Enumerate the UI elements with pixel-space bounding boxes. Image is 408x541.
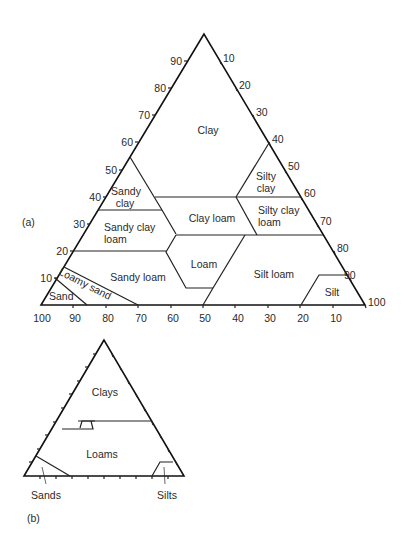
left-tick-70: 70: [138, 109, 150, 121]
bottom-tick-40: 40: [232, 312, 244, 324]
region-silty-clay-line2: clay: [257, 182, 276, 194]
figure-b-label: (b): [27, 512, 40, 524]
right-tick-10: 10: [223, 52, 235, 64]
region-clay: Clay: [197, 124, 219, 136]
right-tick-80: 80: [337, 242, 349, 254]
region-silty-clay-loam-line2: loam: [258, 216, 281, 228]
region-sandy-clay-line2: clay: [116, 197, 135, 209]
left-axis-labels: 10 20 30 40 50 60 70 80 90: [40, 55, 182, 284]
region-loams: Loams: [86, 448, 118, 460]
right-tick-100: 100: [368, 296, 386, 308]
bottom-tick-10: 10: [330, 312, 342, 324]
bottom-tick-60: 60: [167, 312, 179, 324]
region-silt: Silt: [325, 286, 340, 298]
bottom-tick-30: 30: [264, 312, 276, 324]
left-tick-10: 10: [40, 272, 52, 284]
region-sandy-loam: Sandy loam: [110, 271, 166, 283]
region-silts: Silts: [157, 489, 177, 501]
figure-a-label: (a): [22, 216, 35, 228]
region-sandy-clay: Sandy: [111, 185, 142, 197]
left-tick-50: 50: [105, 164, 117, 176]
bottom-axis-labels: 100 90 80 70 60 50 40 30 20 10: [33, 312, 342, 324]
triangle-b-ticks: [29, 354, 177, 479]
left-tick-40: 40: [89, 191, 101, 203]
region-sandy-clay-loam: Sandy clay: [104, 221, 156, 233]
bottom-tick-100: 100: [33, 312, 51, 324]
right-tick-40: 40: [272, 133, 284, 145]
bottom-tick-80: 80: [102, 312, 114, 324]
region-labels: Clay Silty clay Sandy clay Clay loam Sil…: [49, 124, 339, 302]
region-boundaries: [55, 143, 347, 305]
region-sands: Sands: [31, 489, 61, 501]
region-silty-clay-loam: Silty clay: [258, 204, 300, 216]
bottom-tick-50: 50: [199, 312, 211, 324]
bottom-tick-20: 20: [297, 312, 309, 324]
region-sand: Sand: [49, 290, 74, 302]
left-axis-ticks: [54, 61, 187, 278]
right-tick-20: 20: [239, 79, 251, 91]
right-tick-50: 50: [288, 160, 300, 172]
region-clay-loam: Clay loam: [189, 212, 236, 224]
left-tick-90: 90: [170, 55, 182, 67]
left-tick-80: 80: [154, 82, 166, 94]
texture-triangle-b: Clays Loams Sands Silts (b): [24, 340, 184, 524]
triangle-b-labels: Clays Loams Sands Silts: [31, 386, 177, 501]
region-sandy-clay-loam-line2: loam: [104, 233, 127, 245]
bottom-tick-90: 90: [69, 312, 81, 324]
region-clays: Clays: [92, 386, 118, 398]
region-silty-clay: Silty: [256, 170, 277, 182]
region-loam: Loam: [191, 258, 218, 270]
right-axis-labels: 10 20 30 40 50 60 70 80 90 100: [223, 52, 386, 308]
right-tick-70: 70: [320, 215, 332, 227]
right-tick-60: 60: [304, 187, 316, 199]
bottom-tick-70: 70: [135, 312, 147, 324]
left-tick-20: 20: [56, 245, 68, 257]
right-tick-30: 30: [256, 106, 268, 118]
region-silt-loam: Silt loam: [254, 268, 295, 280]
left-tick-30: 30: [73, 218, 85, 230]
soil-texture-diagram: 10 20 30 40 50 60 70 80 90 10 20 30: [0, 0, 408, 541]
texture-triangle-a: 10 20 30 40 50 60 70 80 90 10 20 30: [22, 34, 386, 324]
left-tick-60: 60: [121, 136, 133, 148]
